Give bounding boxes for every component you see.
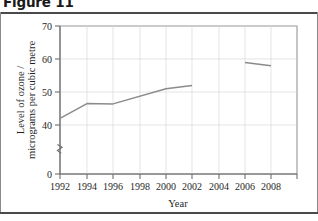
figure-container: Figure 11	[0, 0, 318, 221]
x-tick-label: 2008	[261, 181, 281, 192]
x-tick-label: 1994	[77, 181, 97, 192]
x-axis	[60, 174, 297, 179]
series-line-1992-2002	[60, 85, 192, 118]
y-axis-title-line-2: micrograms per cubic metre	[26, 41, 37, 159]
y-axis-break-icon	[57, 145, 62, 154]
vertical-gridlines	[87, 26, 271, 174]
x-tick-label: 2004	[209, 181, 229, 192]
y-tick-label: 0	[47, 169, 52, 180]
y-axis	[55, 26, 62, 174]
x-tick-labels: 1992 1994 1996 1998 2000 2002 2004 2006 …	[50, 181, 281, 192]
y-axis-title-line-1: Level of ozone /	[15, 66, 26, 135]
y-tick-label: 70	[42, 21, 52, 32]
y-tick-labels: 70 60 50 40 0	[42, 21, 52, 180]
y-tick-label: 60	[42, 54, 52, 65]
bottom-divider-rule	[0, 212, 318, 214]
series-line-2006-2008	[245, 62, 271, 65]
y-tick-label: 50	[42, 87, 52, 98]
x-tick-label: 2002	[182, 181, 202, 192]
x-tick-label: 2006	[235, 181, 255, 192]
x-axis-title: Year	[168, 198, 188, 209]
x-tick-label: 1998	[130, 181, 150, 192]
x-tick-label: 2000	[156, 181, 176, 192]
chart-svg: 70 60 50 40 0 1992 1994 1996 1998 2000 2…	[0, 14, 318, 212]
y-tick-label: 40	[42, 120, 52, 131]
figure-title: Figure 11	[3, 0, 74, 10]
x-tick-label: 1992	[50, 181, 70, 192]
plot-frame	[60, 26, 297, 174]
line-chart: 70 60 50 40 0 1992 1994 1996 1998 2000 2…	[0, 14, 318, 212]
y-axis-title: Level of ozone / micrograms per cubic me…	[15, 41, 37, 159]
x-tick-label: 1996	[103, 181, 123, 192]
horizontal-gridlines	[60, 26, 297, 125]
